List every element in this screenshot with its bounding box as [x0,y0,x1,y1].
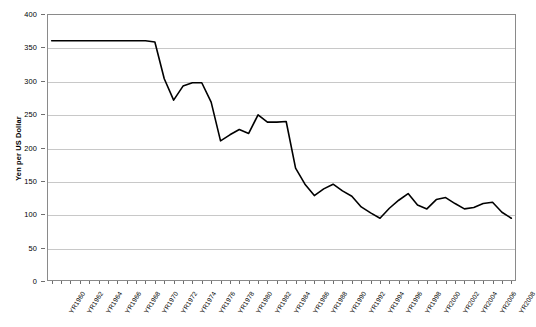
x-axis-tick-mark [408,281,409,284]
x-axis-tick-label: YR1986 [311,290,330,314]
x-axis-tick-mark [174,281,175,284]
x-axis-tick-mark [202,281,203,284]
x-axis-tick-mark [389,281,390,284]
y-axis-tick-label: 400 [24,10,37,19]
y-axis-tick-mark [41,248,45,249]
x-axis-tick-mark [436,281,437,284]
x-axis-tick-label: YR1978 [236,290,255,314]
x-axis-tick-mark [155,281,156,284]
x-axis-tick-mark [511,281,512,284]
y-axis-tick-mark [41,114,45,115]
x-axis-tick-mark [305,281,306,284]
x-axis-tick-mark [464,281,465,284]
y-axis-tick-label: 250 [24,110,37,119]
x-axis-tick-label: YR1974 [198,290,217,314]
y-axis-tick-label: 350 [24,43,37,52]
x-axis-tick-mark [455,281,456,284]
x-axis-tick-mark [52,281,53,284]
x-axis-tick-mark [418,281,419,284]
x-axis-tick-mark [296,281,297,284]
x-axis-tick-mark [380,281,381,284]
x-axis-tick-mark [89,281,90,284]
y-axis-tick-label: 200 [24,143,37,152]
x-axis-tick-mark [239,281,240,284]
x-axis-tick-mark [221,281,222,284]
x-axis-tick-mark [361,281,362,284]
x-axis-tick-mark [286,281,287,284]
x-axis-tick-label: YR1964 [105,290,124,314]
y-axis-tick-mark [41,47,45,48]
x-axis-tick-mark [192,281,193,284]
x-axis-tick-mark [249,281,250,284]
x-axis-tick-mark [333,281,334,284]
x-axis-tick-label: YR2000 [442,290,461,314]
y-axis-tick-label: 50 [29,243,37,252]
y-axis-tick-labels: 050100150200250300350400 [0,0,44,327]
y-axis-tick-mark [41,214,45,215]
x-axis-tick-label: YR1998 [424,290,443,314]
y-axis-tick-label: 300 [24,76,37,85]
x-axis-tick-mark [145,281,146,284]
x-axis-tick-mark [267,281,268,284]
y-axis-tick-label: 150 [24,176,37,185]
y-axis-tick-label: 100 [24,210,37,219]
y-axis-tick-mark [41,181,45,182]
x-axis-tick-mark [314,281,315,284]
x-axis-tick-label: YR1990 [349,290,368,314]
x-axis-tick-mark [61,281,62,284]
x-axis-tick-mark [211,281,212,284]
x-axis-tick-mark [80,281,81,284]
x-axis-tick-label: YR1984 [292,290,311,314]
x-axis-tick-mark [164,281,165,284]
x-axis-tick-label: YR2002 [461,290,480,314]
x-axis-tick-mark [446,281,447,284]
x-axis-tick-label: YR1962 [86,290,105,314]
x-axis-tick-mark [493,281,494,284]
x-axis-tick-mark [427,281,428,284]
x-axis-tick-label: YR2006 [499,290,518,314]
x-axis-tick-mark [371,281,372,284]
x-axis-tick-mark [483,281,484,284]
x-axis-tick-label: YR1968 [142,290,161,314]
x-axis-tick-mark [352,281,353,284]
x-axis-tick-label: YR1996 [405,290,424,314]
x-axis-tick-mark [108,281,109,284]
x-axis-tick-label: YR1994 [386,290,405,314]
x-axis-tick-mark [502,281,503,284]
x-axis-tick-labels: YR1960YR1962YR1964YR1966YR1968YR1970YR19… [0,281,532,327]
y-axis-tick-mark [41,148,45,149]
x-axis-tick-label: YR1976 [217,290,236,314]
x-axis-tick-label: YR2008 [517,290,536,314]
x-axis-tick-label: YR1992 [367,290,386,314]
x-axis-tick-mark [342,281,343,284]
x-axis-tick-label: YR1988 [330,290,349,314]
x-axis-tick-mark [136,281,137,284]
x-axis-tick-mark [474,281,475,284]
x-axis-tick-label: YR2004 [480,290,499,314]
x-axis-tick-label: YR1970 [161,290,180,314]
x-axis-tick-label: YR1982 [274,290,293,314]
x-axis-tick-mark [99,281,100,284]
x-axis-tick-mark [70,281,71,284]
x-axis-tick-mark [277,281,278,284]
y-axis-tick-mark [41,14,45,15]
data-series-line [47,14,516,281]
x-axis-tick-label: YR1966 [123,290,142,314]
x-axis-tick-mark [117,281,118,284]
x-axis-tick-label: YR1980 [255,290,274,314]
y-axis-tick-mark [41,81,45,82]
x-axis-tick-label: YR1960 [67,290,86,314]
series-polyline [52,41,512,219]
x-axis-tick-mark [183,281,184,284]
x-axis-tick-mark [258,281,259,284]
x-axis-tick-mark [399,281,400,284]
x-axis-tick-label: YR1972 [180,290,199,314]
x-axis-tick-mark [127,281,128,284]
x-axis-tick-mark [230,281,231,284]
x-axis-tick-mark [324,281,325,284]
